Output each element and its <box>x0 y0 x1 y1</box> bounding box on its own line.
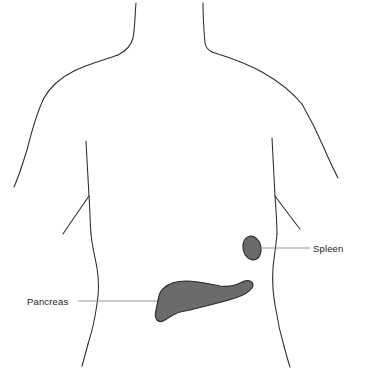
spleen-label: Spleen <box>313 243 343 254</box>
torso-left-side-line <box>86 141 91 234</box>
neck-left-line <box>118 3 136 55</box>
anatomy-diagram: Spleen Pancreas <box>0 0 365 381</box>
torso-left-waist-line <box>88 234 99 344</box>
torso-right-waist-line <box>273 234 284 346</box>
arm-left-outer-line <box>14 98 44 187</box>
spleen-organ[interactable] <box>241 234 264 261</box>
shoulder-right-line <box>212 52 302 104</box>
rib-left-line <box>63 196 89 234</box>
arm-right-outer-line <box>302 104 338 178</box>
pancreas-organ[interactable] <box>155 281 253 322</box>
torso-right-side-line <box>272 138 277 234</box>
organs <box>155 234 263 321</box>
neck-right-line <box>203 3 212 52</box>
hip-left-line <box>82 344 88 366</box>
shoulder-left-line <box>44 55 118 98</box>
hip-right-line <box>284 346 290 367</box>
rib-right-line <box>275 196 300 229</box>
pancreas-label: Pancreas <box>27 296 68 307</box>
anatomy-illustration: Spleen Pancreas <box>0 0 365 381</box>
